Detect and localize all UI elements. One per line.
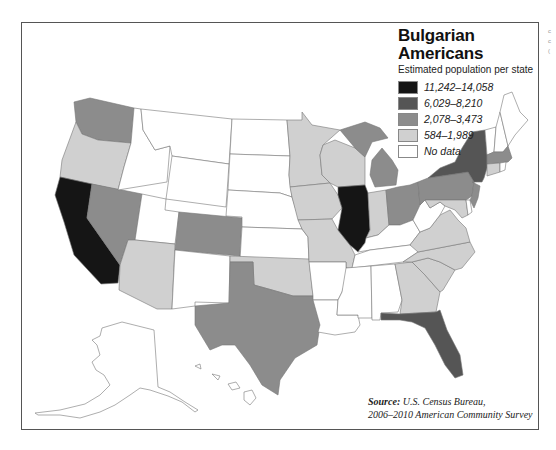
legend-label: 2,078–3,473 bbox=[424, 113, 482, 125]
source-survey: 2006–2010 American Community Survey bbox=[368, 409, 533, 420]
legend-label: 11,242–14,058 bbox=[424, 81, 493, 93]
map-legend: Bulgarian Americans Estimated population… bbox=[398, 27, 538, 159]
legend-swatch bbox=[398, 145, 418, 158]
legend-item: 584–1,989 bbox=[398, 127, 538, 143]
state-utah[interactable] bbox=[135, 194, 179, 244]
state-wyoming[interactable] bbox=[166, 156, 229, 207]
source-text: U.S. Census Bureau, bbox=[403, 396, 486, 407]
state-arizona[interactable] bbox=[119, 240, 175, 309]
state-new-mexico[interactable] bbox=[172, 250, 230, 309]
legend-swatch bbox=[398, 81, 418, 94]
state-connecticut[interactable] bbox=[487, 163, 500, 176]
legend-items: 11,242–14,058 6,029–8,210 2,078–3,473 58… bbox=[398, 79, 538, 159]
edge-fragment: c bbox=[548, 28, 551, 34]
state-colorado[interactable] bbox=[175, 212, 242, 256]
legend-label: No data bbox=[424, 145, 461, 157]
legend-swatch bbox=[398, 97, 418, 110]
state-hawaii[interactable] bbox=[195, 364, 256, 405]
legend-swatch bbox=[398, 129, 418, 142]
legend-label: 6,029–8,210 bbox=[424, 97, 482, 109]
legend-item: 11,242–14,058 bbox=[398, 79, 538, 95]
state-rhode-island[interactable] bbox=[500, 162, 506, 172]
state-florida[interactable] bbox=[381, 310, 463, 378]
source-note: Source: U.S. Census Bureau, 2006–2010 Am… bbox=[368, 395, 533, 421]
legend-swatch bbox=[398, 113, 418, 126]
state-iowa[interactable] bbox=[290, 183, 342, 220]
source-label: Source: bbox=[368, 396, 400, 407]
state-north-dakota[interactable] bbox=[230, 119, 290, 156]
edge-fragment: ( bbox=[548, 48, 550, 54]
legend-label: 584–1,989 bbox=[424, 129, 474, 141]
map-title: Bulgarian Americans bbox=[398, 27, 538, 63]
legend-item: 6,029–8,210 bbox=[398, 95, 538, 111]
state-alaska[interactable] bbox=[35, 322, 198, 418]
legend-item: No data bbox=[398, 143, 538, 159]
legend-item: 2,078–3,473 bbox=[398, 111, 538, 127]
map-subtitle: Estimated population per state bbox=[398, 64, 538, 76]
edge-fragment: c bbox=[548, 38, 551, 44]
